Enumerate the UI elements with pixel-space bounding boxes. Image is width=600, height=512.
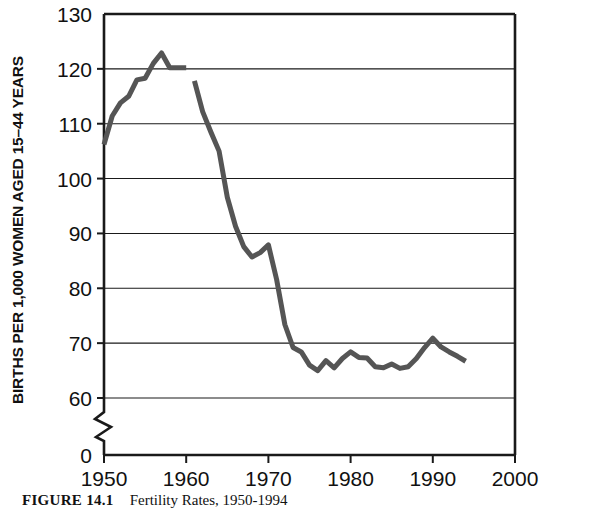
y-tick-label-100: 100	[57, 168, 92, 191]
data-line-1	[104, 53, 186, 145]
chart-plot-area: 0607080901001101201301950196019701980199…	[0, 0, 600, 512]
figure-root: BIRTHS PER 1,000 WOMEN AGED 15–44 YEARS …	[0, 0, 600, 512]
gridlines	[104, 14, 515, 398]
x-tick-label-1990: 1990	[409, 467, 456, 490]
y-tick-label-80: 80	[69, 277, 92, 300]
x-tick-label-1970: 1970	[245, 467, 292, 490]
fertility-rate-line-chart: 0607080901001101201301950196019701980199…	[0, 0, 600, 512]
x-tick-label-1950: 1950	[81, 467, 128, 490]
y-tick-label-120: 120	[57, 58, 92, 81]
figure-caption: FIGURE 14.1Fertility Rates, 1950-1994	[22, 492, 582, 509]
y-tick-label-130: 130	[57, 3, 92, 26]
figure-caption-label: FIGURE 14.1	[22, 492, 114, 508]
axis-frame	[95, 14, 515, 455]
x-tick-label-1960: 1960	[163, 467, 210, 490]
y-axis-break-symbol	[95, 398, 111, 455]
y-tick-label-60: 60	[69, 387, 92, 410]
y-tick-label-110: 110	[59, 113, 92, 136]
y-axis-ticks: 060708090100110120130	[57, 3, 104, 467]
y-tick-label-90: 90	[69, 222, 92, 245]
data-series-group	[104, 53, 466, 371]
x-tick-label-1980: 1980	[327, 467, 374, 490]
x-axis-ticks: 195019601970198019902000	[81, 455, 539, 490]
y-tick-label-0: 0	[80, 444, 92, 467]
figure-caption-text: Fertility Rates, 1950-1994	[130, 492, 288, 508]
data-line-2	[194, 81, 465, 371]
y-tick-label-70: 70	[69, 332, 92, 355]
x-tick-label-2000: 2000	[492, 467, 539, 490]
